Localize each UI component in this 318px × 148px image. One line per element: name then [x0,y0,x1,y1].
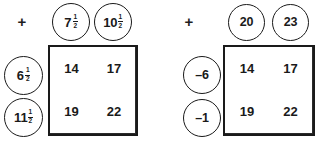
plus-operator: + [14,14,30,30]
grid-cell-r1c2[interactable]: 17 [93,47,136,91]
grid-cell-r1c1[interactable]: 14 [225,47,269,91]
column-header-2-whole: 10 [103,16,117,29]
plus-operator: + [181,14,197,30]
grid-cell-r2c2[interactable]: 22 [269,91,313,135]
column-header-2-fraction: 1 2 [118,14,123,29]
fraction-denominator: 2 [73,23,78,30]
column-header-2-whole: 23 [284,16,298,29]
row-header-1-whole: 6 [17,69,24,82]
row-header-1-fraction: 1 2 [25,67,30,82]
grid-cell-r2c1[interactable]: 19 [50,91,93,135]
addition-table-worksheet: + 7 1 2 10 1 2 [0,0,318,148]
fraction-numerator: 1 [118,14,123,21]
sums-grid: 14 17 19 22 [48,45,138,136]
grid-cell-r2c2[interactable]: 22 [93,91,136,135]
row-header-circle-1[interactable]: –6 [183,56,221,94]
row-header-circle-1[interactable]: 6 1 2 [4,56,43,95]
grid-cell-r1c2[interactable]: 17 [269,47,313,91]
puzzle-right: + 20 23 –6 –1 14 17 19 [159,0,318,148]
fraction-numerator: 1 [73,14,78,21]
column-header-circle-1[interactable]: 20 [228,4,265,41]
column-header-circle-2[interactable]: 23 [272,4,309,41]
column-header-1-whole: 7 [64,16,71,29]
row-header-2-whole: –1 [195,112,209,125]
row-header-1-whole: –6 [195,69,209,82]
fraction-denominator: 2 [28,118,33,125]
grid-cell-r1c1[interactable]: 14 [50,47,93,91]
fraction-denominator: 2 [25,76,30,83]
column-header-circle-2[interactable]: 10 1 2 [94,3,132,41]
grid-cell-r2c1[interactable]: 19 [225,91,269,135]
row-header-2-fraction: 1 2 [28,109,33,124]
column-header-circle-1[interactable]: 7 1 2 [52,3,90,41]
sums-grid: 14 17 19 22 [223,45,315,136]
fraction-numerator: 1 [28,109,33,116]
fraction-numerator: 1 [25,67,30,74]
puzzle-left: + 7 1 2 10 1 2 [0,0,159,148]
row-header-2-whole: 11 [14,111,27,124]
column-header-1-fraction: 1 2 [73,14,78,29]
column-header-1-whole: 20 [240,16,254,29]
fraction-denominator: 2 [118,23,123,30]
row-header-circle-2[interactable]: 11 1 2 [4,98,43,137]
row-header-circle-2[interactable]: –1 [183,99,221,137]
